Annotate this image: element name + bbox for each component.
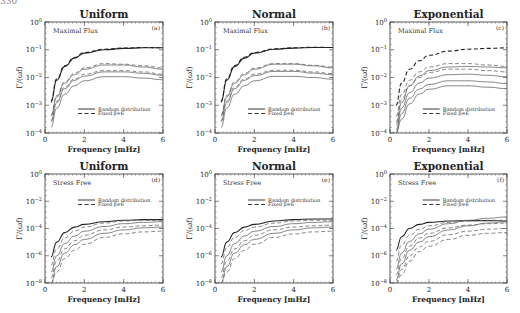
svg-text:0: 0 bbox=[388, 286, 392, 294]
random-distribution-curve bbox=[396, 217, 507, 270]
y-axis-label: Γ/(ωf) bbox=[360, 217, 369, 240]
x-axis-ticks: 0246 bbox=[388, 174, 510, 294]
panel-label: (f) bbox=[497, 176, 504, 183]
chart-panel-f: Exponential10010−210−410−610−80246Freque… bbox=[0, 0, 520, 313]
fixed-beta-curve bbox=[396, 229, 507, 284]
y-axis-ticks: 10010−210−410−610−8 bbox=[371, 169, 507, 288]
boundary-condition-label: Stress Free bbox=[398, 179, 436, 187]
svg-text:4: 4 bbox=[466, 286, 471, 294]
fixed-beta-curve bbox=[396, 220, 507, 261]
svg-text:6: 6 bbox=[505, 286, 510, 294]
random-distribution-curve bbox=[396, 221, 507, 251]
legend: Random distributionFixed β=6 bbox=[423, 197, 496, 209]
svg-text:10−6: 10−6 bbox=[371, 250, 387, 260]
svg-text:10−4: 10−4 bbox=[371, 223, 387, 233]
svg-text:10−8: 10−8 bbox=[371, 278, 387, 288]
legend-label-fixed: Fixed β=6 bbox=[443, 201, 469, 208]
panel-title: Exponential bbox=[413, 160, 483, 172]
svg-text:2: 2 bbox=[427, 286, 431, 294]
series-lines bbox=[396, 217, 507, 283]
random-distribution-curve bbox=[396, 222, 507, 281]
plot-frame bbox=[390, 174, 507, 283]
svg-text:10−2: 10−2 bbox=[371, 196, 387, 206]
svg-text:100: 100 bbox=[375, 169, 387, 179]
x-axis-label: Frequency [mHz] bbox=[412, 295, 485, 304]
